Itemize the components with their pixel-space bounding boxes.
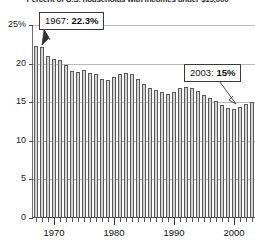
callout-2003-value: 15%: [216, 67, 235, 78]
callout-leader-lines: [0, 0, 255, 249]
callout-2003: 2003: 15%: [184, 64, 241, 82]
callout-1967-year: 1967:: [45, 15, 69, 26]
callout-1967: 1967: 22.3%: [39, 12, 104, 30]
callout-2003-year: 2003:: [190, 67, 214, 78]
callout-1967-value: 22.3%: [71, 15, 98, 26]
bar-chart: Percent of U.S. households with incomes …: [0, 0, 255, 249]
